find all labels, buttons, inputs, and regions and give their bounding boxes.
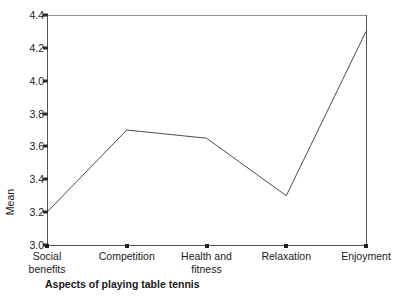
- x-axis-tick-mark: [364, 244, 368, 248]
- x-axis-tick-mark: [45, 244, 49, 248]
- data-series-line: [47, 15, 367, 246]
- y-axis-tick-label: 4.2: [0, 42, 44, 53]
- y-axis-tick-mark: [43, 46, 48, 49]
- chart-figure: Mean 3.03.23.43.63.84.04.24.4 Social ben…: [0, 0, 399, 297]
- y-axis-tick-label: 4.4: [0, 10, 44, 21]
- x-axis-tick-mark: [205, 244, 209, 248]
- y-axis-tick-mark: [43, 14, 48, 17]
- x-axis-tick-label: Enjoyment: [318, 250, 399, 263]
- y-axis-tick-label: 3.6: [0, 141, 44, 152]
- y-axis-tick-mark: [43, 211, 48, 214]
- y-axis-tick-mark: [43, 112, 48, 115]
- x-axis-tick-mark: [284, 244, 288, 248]
- x-axis-title: Aspects of playing table tennis: [45, 278, 200, 291]
- plot-area: [47, 15, 367, 245]
- mean-line-path: [47, 31, 366, 212]
- y-axis-tick-label: 3.4: [0, 174, 44, 185]
- x-axis-tick-mark: [125, 244, 129, 248]
- y-axis-tick-mark: [43, 79, 48, 82]
- y-axis-tick-label: 3.8: [0, 108, 44, 119]
- y-axis-tick-label: 3.0: [0, 240, 44, 251]
- y-axis-tick-label: 4.0: [0, 75, 44, 86]
- y-axis-tick-mark: [43, 178, 48, 181]
- y-axis-tick-label: 3.2: [0, 207, 44, 218]
- y-axis-tick-mark: [43, 145, 48, 148]
